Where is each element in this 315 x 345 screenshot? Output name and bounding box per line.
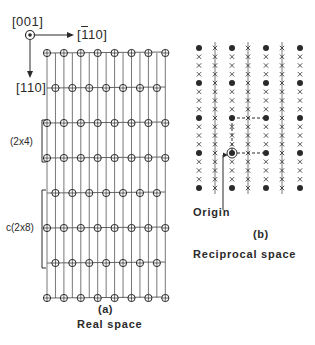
cell-label-2x4-text: (2x4)	[10, 136, 33, 147]
bracket-close: ]	[103, 27, 107, 42]
integer-spot-icon	[263, 80, 269, 86]
integer-spot-icon	[196, 185, 202, 191]
overbar-digit: 1	[81, 27, 88, 42]
integer-spot-icon	[263, 185, 269, 191]
panel-label-b: (b)	[253, 228, 269, 240]
integer-spot-icon	[196, 115, 202, 121]
integer-spot-icon	[297, 45, 303, 51]
integer-spot-icon	[229, 45, 235, 51]
integer-spot-icon	[196, 150, 202, 156]
caption-reciprocal-space: Reciprocal space	[193, 248, 296, 260]
real-space-lattice	[43, 49, 168, 301]
integer-spot-icon	[297, 115, 303, 121]
axis-label-110-text: [110]	[16, 80, 46, 95]
cell-label-2x4: (2x4)	[10, 136, 33, 147]
origin-label-text: Origin	[193, 206, 230, 218]
integer-spot-icon	[229, 80, 235, 86]
panel-label-a-text: (a)	[98, 303, 113, 315]
digits: 10	[88, 27, 103, 42]
panel-label-b-text: (b)	[253, 228, 269, 240]
axis-label-1-10: [110]	[77, 27, 107, 42]
integer-spot-icon	[196, 45, 202, 51]
integer-spot-icon	[297, 80, 303, 86]
axis-label-001-text: [001]	[12, 14, 43, 29]
cell-label-c2x8: c(2x8)	[6, 222, 34, 233]
integer-spot-icon	[229, 185, 235, 191]
axis-label-001: [001]	[12, 14, 43, 29]
panel-label-a: (a)	[98, 303, 113, 315]
caption-real-space-text: Real space	[77, 318, 142, 330]
integer-spot-icon	[196, 80, 202, 86]
unit-cell-brackets	[42, 120, 46, 268]
surface-reconstruction-figure	[0, 0, 315, 345]
caption-reciprocal-space-text: Reciprocal space	[193, 248, 296, 260]
origin-marker	[223, 118, 266, 210]
integer-spot-icon	[297, 185, 303, 191]
origin-label: Origin	[193, 206, 230, 218]
integer-spot-icon	[263, 45, 269, 51]
caption-real-space: Real space	[77, 318, 142, 330]
integer-spot-icon	[297, 150, 303, 156]
cell-label-c2x8-text: c(2x8)	[6, 222, 34, 233]
axis-label-110: [110]	[16, 80, 46, 95]
